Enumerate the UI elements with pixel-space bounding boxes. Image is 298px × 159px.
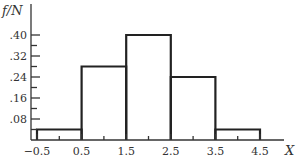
histogram-bar: [171, 77, 216, 140]
y-tick-label: .40: [10, 29, 28, 42]
histogram-chart: .08.16.24.32.40 −0.50.51.52.53.54.5 f/N …: [0, 0, 298, 159]
y-tick-label: .24: [10, 71, 28, 84]
y-axis-title: f/N: [1, 3, 23, 18]
x-tick-label: 2.5: [162, 145, 180, 158]
x-tick-label: 4.5: [251, 145, 269, 158]
x-tick-label: −0.5: [24, 145, 51, 158]
x-axis-title: X: [284, 143, 295, 158]
histogram-bar: [126, 35, 171, 140]
y-tick-label: .16: [10, 92, 28, 105]
x-tick-label: 0.5: [73, 145, 91, 158]
y-tick-label: .08: [10, 113, 28, 126]
axes: [31, 4, 284, 140]
histogram-bar: [82, 67, 127, 141]
y-ticks: .08.16.24.32.40: [10, 29, 41, 130]
x-tick-label: 1.5: [117, 145, 135, 158]
y-tick-label: .32: [10, 50, 28, 63]
x-ticks: −0.50.51.52.53.54.5: [24, 134, 269, 158]
x-tick-label: 3.5: [207, 145, 225, 158]
histogram-bars: [37, 35, 260, 140]
